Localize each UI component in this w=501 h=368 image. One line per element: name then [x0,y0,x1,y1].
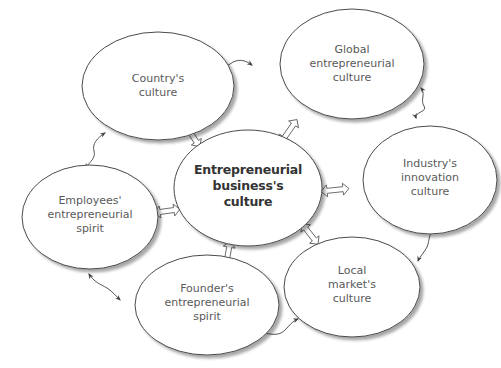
node-label-industry-innovation-culture: Industry's innovation culture [401,157,459,199]
label-line: entrepreneurial [47,208,132,222]
label-line: Industry's [401,157,459,171]
wavy-arrow-founder-employees [89,274,120,300]
label-line: culture [132,86,184,100]
node-label-employees-entrepreneurial-spirit: Employees' entrepreneurial spirit [47,194,132,236]
label-line: culture [401,185,459,199]
label-line: Local [328,264,376,278]
wavy-arrow-global-industry [416,88,425,118]
label-line: spirit [47,222,132,236]
hollow-arrow-industry-center [320,183,349,198]
label-line: culture [309,71,394,85]
label-line: spirit [164,310,249,324]
label-line: culture [328,292,376,306]
wavy-arrow-employees-country [85,133,105,168]
node-label-founder-entrepreneurial-spirit: Founder's entrepreneurial spirit [164,282,249,324]
label-line: innovation [401,171,459,185]
label-line: entrepreneurial [164,296,249,310]
label-line: culture [194,194,302,210]
label-line: Entrepreneurial [194,162,302,178]
label-line: business's [194,178,302,194]
node-label-entrepreneurial-business-culture: Entrepreneurial business's culture [194,162,302,210]
label-line: Employees' [47,194,132,208]
label-line: Global [309,43,394,57]
label-line: Country's [132,72,184,86]
node-label-global-entrepreneurial-culture: Global entrepreneurial culture [309,43,394,85]
label-line: entrepreneurial [309,57,394,71]
label-line: market's [328,278,376,292]
node-label-local-market-culture: Local market's culture [328,264,376,306]
node-label-country-culture: Country's culture [132,72,184,100]
label-line: Founder's [164,282,249,296]
